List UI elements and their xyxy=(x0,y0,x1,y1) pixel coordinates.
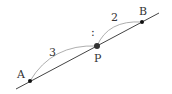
label-b: B xyxy=(139,5,147,18)
point-b xyxy=(140,20,144,24)
ratio-label-ap: 3 xyxy=(49,46,56,59)
main-line xyxy=(16,13,159,89)
ratio-separator: : xyxy=(91,26,95,39)
point-p xyxy=(94,43,100,49)
ratio-label-pb: 2 xyxy=(111,11,118,24)
label-a: A xyxy=(16,68,26,81)
ratio-diagram: A P B 3 2 : xyxy=(0,0,172,94)
point-a xyxy=(28,79,32,83)
label-p: P xyxy=(94,52,102,65)
diagram-canvas: A P B 3 2 : xyxy=(0,0,172,94)
